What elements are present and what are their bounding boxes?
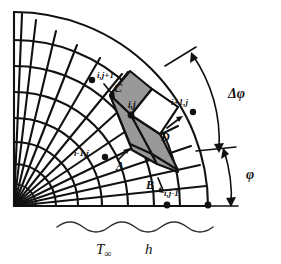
node-dot-i-plus-1-j	[190, 109, 196, 115]
node-dot-center	[128, 112, 135, 119]
convection-wavy-line	[57, 222, 213, 232]
phi-arc	[224, 150, 231, 204]
label-node-center: i,j	[128, 100, 136, 110]
label-phi: φ	[246, 167, 254, 182]
label-t-infinity: T∞	[96, 241, 111, 259]
label-flux-d: D	[160, 130, 170, 144]
grid-arcs	[14, 12, 208, 206]
radial-8	[14, 58, 100, 206]
polar-grid-figure: i,j+1 i+1,j i-1,j i,j-1 i,j A B C D	[0, 0, 281, 264]
label-node-i-j-minus-1: i,j-1	[164, 188, 179, 198]
label-h-coefficient: h	[145, 241, 153, 257]
label-flux-b: B	[145, 178, 154, 192]
t-subscript-infinity: ∞	[104, 248, 111, 259]
label-node-i-minus-1-j: i-1,j	[74, 148, 89, 158]
node-dot-i-minus-1-j	[102, 154, 108, 160]
ambient-labels: T∞ h	[96, 241, 153, 259]
label-flux-c: C	[114, 81, 123, 95]
label-delta-phi: Δφ	[227, 86, 245, 101]
node-dot-i-j-minus-1	[164, 202, 171, 209]
node-dot-baseline-outer	[205, 202, 212, 209]
node-dot-i-j-plus-1	[89, 77, 95, 83]
delta-phi-arc	[192, 54, 219, 150]
phi-arrow-top	[221, 148, 229, 159]
label-node-i-plus-1-j: i+1,j	[171, 97, 188, 107]
polar-grid-diagram: i,j+1 i+1,j i-1,j i,j-1 i,j A B C D	[0, 0, 281, 264]
label-flux-a: A	[115, 159, 124, 173]
label-node-i-j-plus-1: i,j+1	[97, 70, 114, 80]
extension-line-middle	[196, 147, 236, 151]
